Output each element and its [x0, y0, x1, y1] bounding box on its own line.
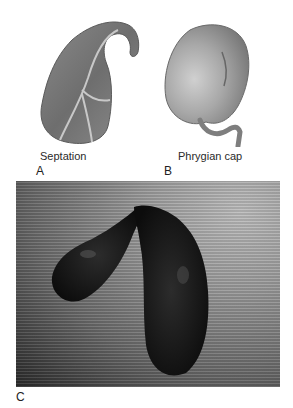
panel-a-label: A [36, 164, 44, 178]
panel-c-label: C [16, 390, 25, 404]
panel-a-caption: Septation [40, 150, 86, 162]
septated-gallbladder-icon [38, 18, 143, 146]
bilobed-gallbladder-specimen [16, 181, 280, 387]
phrygian-cap-illustration [160, 22, 255, 147]
panel-b-label: B [164, 164, 172, 178]
gallbladder-photo [16, 181, 280, 387]
panel-b-caption: Phrygian cap [178, 150, 242, 162]
phrygian-cap-gallbladder-icon [160, 22, 255, 147]
septation-illustration [38, 18, 143, 146]
